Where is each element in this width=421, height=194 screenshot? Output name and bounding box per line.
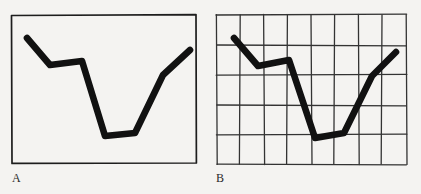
panel-a-label: A (12, 172, 21, 184)
panel-b-label: B (216, 172, 225, 184)
figure-container: A (0, 0, 421, 194)
panel-b-grid-vertical (216, 14, 407, 164)
panel-a: A (0, 0, 205, 194)
panel-b-plot (206, 0, 421, 194)
panel-a-data-line (27, 38, 190, 136)
panel-a-frame (12, 15, 197, 164)
panel-a-plot (0, 0, 205, 194)
panel-b: B (206, 0, 421, 194)
panel-b-data-line (234, 38, 396, 138)
